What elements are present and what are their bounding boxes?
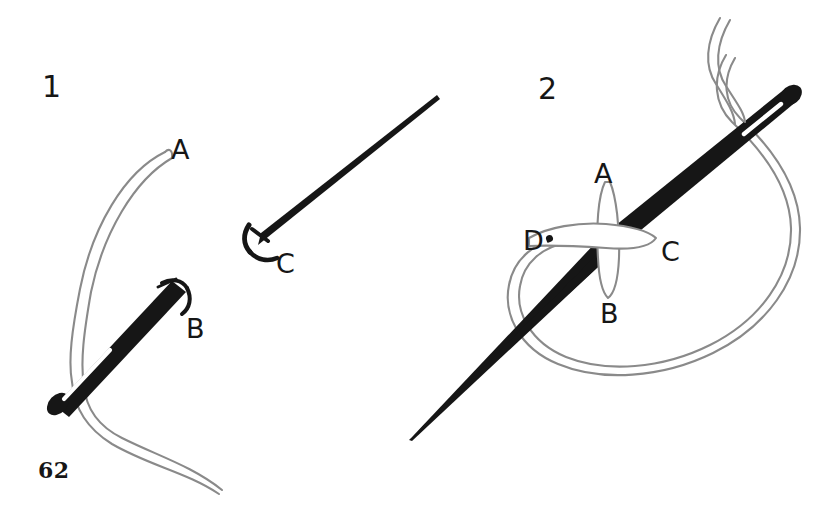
label-c-figure-2: C	[661, 238, 680, 265]
figure-middle-needle-group	[245, 95, 440, 260]
label-b-figure-2: B	[600, 300, 619, 327]
label-c-middle-needle: C	[276, 250, 295, 277]
label-b-figure-1: B	[186, 315, 205, 342]
figure-1-thread-tail	[72, 382, 222, 494]
figure-1-needle	[43, 279, 190, 420]
illustration-page: 1 2 A B C A B C D 62	[0, 0, 821, 523]
label-a-figure-2: A	[594, 160, 612, 187]
figure-1-number: 1	[42, 72, 62, 102]
diagram-canvas	[0, 0, 821, 523]
figure-2-thread-through-eye	[708, 18, 745, 124]
label-a-figure-1: A	[171, 136, 189, 163]
label-d-figure-2: D	[523, 227, 544, 254]
page-number: 62	[38, 459, 70, 481]
figure-2-number: 2	[538, 74, 558, 104]
figure-2-group	[409, 18, 806, 441]
